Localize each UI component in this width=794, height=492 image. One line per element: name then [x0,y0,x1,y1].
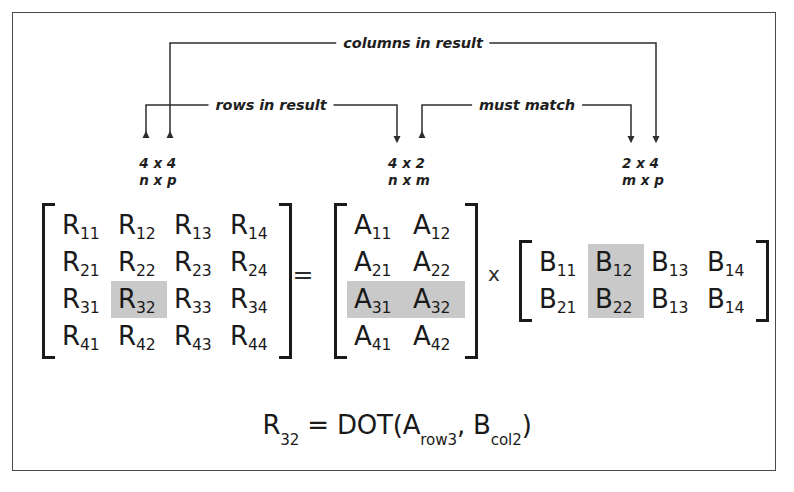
equals-operator: = [293,260,314,289]
matrix-b-bracket-right [756,240,769,322]
matrix-result-grid: R11R12R13R14R21R22R23R24R31R32R33R34R41R… [55,203,279,359]
matrix-result-cell-4-1: R41 [55,318,111,355]
formula-separator: , [457,410,473,440]
matrix-result-cell-4-4: R44 [223,318,279,355]
matrix-result-cell-4-3: R43 [167,318,223,355]
matrix-a-grid: A11A12A21A22A31A32A41A42 [347,203,465,359]
matrix-a-cell-3-2: A32 [406,281,465,318]
formula-function: DOT( [337,410,403,440]
matrix-result-cell-1-4: R14 [223,207,279,244]
dims-a-symbolic: n x m [388,172,430,189]
formula-arg2-base: B [473,410,491,440]
formula-lhs-base: R [262,410,280,440]
matrix-a-cell-2-2: A22 [406,244,465,281]
matrix-a: A11A12A21A22A31A32A41A42 [334,203,478,359]
formula-arg1-base: A [403,410,421,440]
matrix-multiplication-figure: columns in result rows in result must ma… [0,0,794,492]
dims-b-numeric: 2 x 4 [622,155,664,172]
dims-result-symbolic: n x p [139,172,176,189]
dot-product-formula: R32 = DOT(Arow3, Bcol2) [262,410,531,444]
formula-arg2-sub: col2 [491,431,522,449]
matrix-b-cell-2-2: B22 [588,281,644,318]
times-operator: x [488,262,500,286]
matrix-result-cell-4-2: R42 [111,318,167,355]
matrix-result-cell-3-1: R31 [55,281,111,318]
matrix-result-cell-2-4: R24 [223,244,279,281]
formula-equals: = [299,410,337,440]
matrix-result-cell-2-3: R23 [167,244,223,281]
matrix-b-cell-2-4: B14 [700,281,756,318]
matrix-result: R11R12R13R14R21R22R23R24R31R32R33R34R41R… [42,203,292,359]
matrix-b-cell-1-3: B13 [644,244,700,281]
formula-arg1-sub: row3 [420,431,457,449]
arrow-columns-in-result [170,43,656,137]
matrix-a-cell-1-1: A11 [347,207,406,244]
dims-result: 4 x 4 n x p [139,155,176,189]
matrix-result-cell-2-2: R22 [111,244,167,281]
matrix-result-cell-1-3: R13 [167,207,223,244]
matrix-a-cell-4-1: A41 [347,318,406,355]
matrix-b: B11B12B13B14B21B22B13B14 [519,240,769,322]
matrix-result-cell-1-2: R12 [111,207,167,244]
label-columns-in-result: columns in result [336,35,489,51]
label-must-match: must match [472,97,582,113]
matrix-b-cell-1-2: B12 [588,244,644,281]
matrix-result-cell-3-4: R34 [223,281,279,318]
formula-close: ) [522,410,532,440]
matrix-b-bracket-left [519,240,532,322]
matrix-b-cell-1-1: B11 [532,244,588,281]
matrix-result-cell-3-2: R32 [111,281,167,318]
matrix-result-bracket-right [279,203,292,359]
matrix-a-cell-1-2: A12 [406,207,465,244]
matrix-a-cell-4-2: A42 [406,318,465,355]
matrix-result-cell-3-3: R33 [167,281,223,318]
dims-a-numeric: 4 x 2 [388,155,430,172]
dims-b: 2 x 4 m x p [622,155,664,189]
formula-lhs-sub: 32 [280,431,299,449]
label-rows-in-result: rows in result [209,97,334,113]
matrix-result-cell-1-1: R11 [55,207,111,244]
matrix-a-cell-3-1: A31 [347,281,406,318]
matrix-a-cell-2-1: A21 [347,244,406,281]
dims-a: 4 x 2 n x m [388,155,430,189]
dims-b-symbolic: m x p [622,172,664,189]
matrix-result-cell-2-1: R21 [55,244,111,281]
matrix-b-cell-1-4: B14 [700,244,756,281]
matrix-b-cell-2-3: B13 [644,281,700,318]
matrix-b-grid: B11B12B13B14B21B22B13B14 [532,240,756,322]
matrix-b-cell-2-1: B21 [532,281,588,318]
dims-result-numeric: 4 x 4 [139,155,176,172]
matrix-a-bracket-left [334,203,347,359]
matrix-a-bracket-right [465,203,478,359]
matrix-result-bracket-left [42,203,55,359]
